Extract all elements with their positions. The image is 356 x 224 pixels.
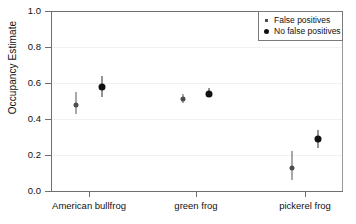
legend: False positives No false positives — [258, 11, 343, 41]
x-axis-tick-label: pickerel frog — [279, 200, 331, 211]
legend-item-false-positives: False positives — [262, 15, 338, 26]
data-point — [99, 83, 106, 90]
y-axis-tick-label: 0.8 — [0, 41, 41, 52]
x-axis-line — [51, 191, 343, 192]
y-axis-tick-label: 0.2 — [0, 149, 41, 160]
data-point — [315, 135, 322, 142]
data-point — [290, 165, 295, 170]
square-marker-icon — [262, 19, 270, 22]
data-point — [181, 97, 186, 102]
circle-marker-icon — [262, 29, 270, 34]
y-axis-tick-label: 1.0 — [0, 5, 41, 16]
y-axis-tick-label: 0.4 — [0, 113, 41, 124]
occupancy-estimate-chart: Occupancy Estimate 0.00.20.40.60.81.0 Am… — [0, 0, 356, 224]
y-axis-tick-label: 0.0 — [0, 185, 41, 196]
data-point — [206, 90, 213, 97]
x-axis-tick-label: American bullfrog — [52, 200, 126, 211]
legend-label: No false positives — [274, 26, 341, 37]
legend-item-no-false-positives: No false positives — [262, 26, 338, 37]
legend-label: False positives — [274, 15, 330, 26]
x-axis-tick-label: green frog — [174, 200, 217, 211]
y-axis-tick-label: 0.6 — [0, 77, 41, 88]
data-point — [74, 102, 79, 107]
